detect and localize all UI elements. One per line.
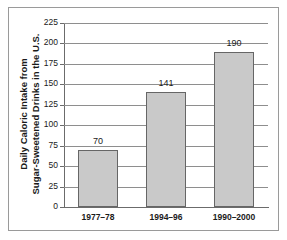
bar[interactable] [146, 92, 186, 207]
bar-value-label: 141 [136, 78, 196, 88]
y-axis-tick [60, 187, 64, 188]
x-axis-tick-label: 1994–96 [132, 212, 200, 222]
y-axis-tick-label: 175 [32, 59, 58, 68]
y-axis-tick [60, 166, 64, 167]
bar[interactable] [214, 52, 254, 207]
y-axis-tick [60, 207, 64, 208]
gridline [64, 23, 268, 24]
y-axis-tick-label: 75 [32, 141, 58, 150]
y-axis-tick [60, 23, 64, 24]
x-axis-line [64, 207, 269, 208]
bar-value-label: 190 [204, 38, 264, 48]
y-axis-tick-label: 225 [32, 18, 58, 27]
y-axis-tick-label: 200 [32, 38, 58, 47]
x-axis-tick-label: 1990–2000 [200, 212, 268, 222]
y-axis-tick-labels: 0255075100125150175200225 [30, 23, 58, 207]
y-axis-tick-label: 0 [32, 202, 58, 211]
y-axis-tick-label: 25 [32, 182, 58, 191]
y-axis-tick [60, 84, 64, 85]
y-axis-tick [60, 125, 64, 126]
y-axis-tick [60, 105, 64, 106]
y-axis-title-line-1: Daily Caloric Intake from [18, 33, 30, 194]
y-axis-tick-label: 150 [32, 79, 58, 88]
y-axis-tick-label: 125 [32, 100, 58, 109]
chart-figure: Daily Caloric Intake from Sugar-Sweetene… [0, 0, 287, 240]
x-axis-tick-label: 1977–78 [64, 212, 132, 222]
y-axis-tick-label: 50 [32, 161, 58, 170]
bar-value-label: 70 [68, 136, 128, 146]
bar[interactable] [78, 150, 118, 207]
y-axis-tick [60, 146, 64, 147]
y-axis-tick [60, 64, 64, 65]
y-axis-tick [60, 43, 64, 44]
plot-area: 70141190 [64, 23, 268, 207]
y-axis-tick-label: 100 [32, 120, 58, 129]
